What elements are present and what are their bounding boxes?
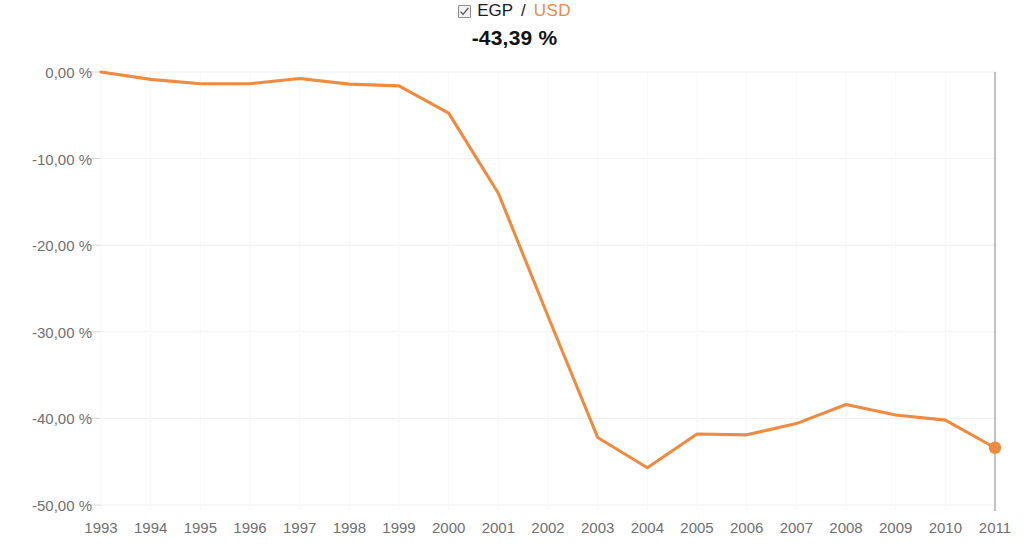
x-axis-tick-label: 2009: [879, 519, 912, 536]
y-axis-tick-label: -50,00 %: [32, 497, 92, 514]
plot-area: 0,00 %-10,00 %-20,00 %-30,00 %-40,00 %-5…: [0, 0, 1029, 548]
x-axis-tick-label: 1999: [382, 519, 415, 536]
currency-performance-chart: EGP / USD -43,39 % 0,00 %-10,00 %-20,00 …: [0, 0, 1029, 548]
x-axis-tick-label: 2005: [680, 519, 713, 536]
end-point-marker[interactable]: [989, 442, 1001, 454]
x-axis-tick-label: 1998: [333, 519, 366, 536]
x-axis-tick-label: 1993: [84, 519, 117, 536]
gridlines: [91, 72, 997, 505]
x-axis-tick-label: 2011: [979, 519, 1011, 536]
x-axis-tick-label: 2010: [929, 519, 962, 536]
x-axis-tick-label: 2003: [581, 519, 614, 536]
y-axis-tick-label: -30,00 %: [32, 323, 92, 340]
x-axis-tick-label: 2008: [829, 519, 862, 536]
x-axis-tick-label: 2007: [780, 519, 813, 536]
x-axis-tick-label: 2002: [531, 519, 564, 536]
x-axis-tick-label: 2000: [432, 519, 465, 536]
y-axis-tick-label: -20,00 %: [32, 237, 92, 254]
x-axis-tick-label: 1994: [134, 519, 167, 536]
y-axis-tick-label: -40,00 %: [32, 410, 92, 427]
x-axis-tick-label: 2001: [482, 519, 515, 536]
y-axis-tick-label: 0,00 %: [45, 64, 92, 81]
x-gridlines: [101, 72, 995, 509]
x-axis-tick-label: 1995: [184, 519, 217, 536]
x-axis-tick-label: 2006: [730, 519, 763, 536]
plot-canvas: [0, 0, 1029, 548]
x-axis-tick-label: 2004: [631, 519, 664, 536]
x-axis-tick-label: 1996: [233, 519, 266, 536]
y-axis-tick-label: -10,00 %: [32, 150, 92, 167]
x-axis-tick-label: 1997: [283, 519, 316, 536]
